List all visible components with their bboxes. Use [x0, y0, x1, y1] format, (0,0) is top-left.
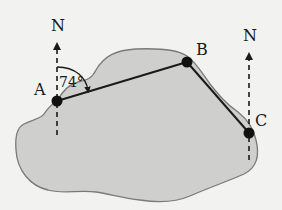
north-label-c: N: [243, 26, 257, 45]
point-a-label: A: [33, 80, 46, 99]
land-region: [16, 49, 258, 202]
north-label-a: N: [51, 16, 65, 35]
point-b-label: B: [196, 40, 208, 59]
point-a: [52, 96, 63, 107]
navigation-diagram: A B C N N 74°: [0, 0, 282, 210]
angle-label: 74°: [59, 74, 84, 90]
point-c-label: C: [255, 111, 267, 130]
point-b: [182, 57, 193, 68]
point-c: [244, 128, 255, 139]
diagram-canvas: A B C N N 74°: [0, 0, 282, 210]
